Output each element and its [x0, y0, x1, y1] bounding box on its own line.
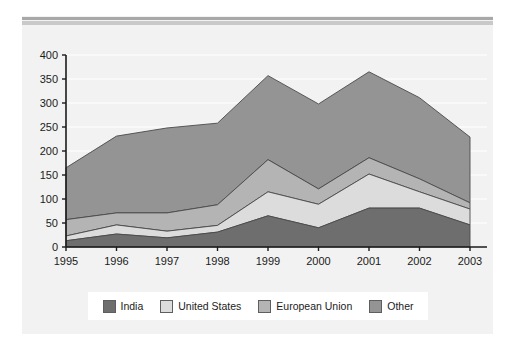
y-tick-label: 100	[40, 193, 58, 205]
legend-swatch-united-states	[160, 300, 173, 313]
legend-item-other[interactable]: Other	[369, 300, 413, 313]
legend-item-united-states[interactable]: United States	[160, 300, 241, 313]
x-tick-label: 1999	[256, 255, 280, 267]
x-tick-label: 2002	[407, 255, 431, 267]
y-tick-label: 150	[40, 169, 58, 181]
legend-swatch-european-union	[258, 300, 271, 313]
y-tick-label: 250	[40, 121, 58, 133]
legend-label-other: Other	[387, 300, 413, 312]
y-tick-label: 200	[40, 145, 58, 157]
legend-item-european-union[interactable]: European Union	[258, 300, 352, 313]
x-tick-label: 1996	[104, 255, 128, 267]
y-tick-label: 350	[40, 73, 58, 85]
y-tick-label: 50	[46, 217, 58, 229]
y-tick-group: 050100150200250300350400	[40, 49, 66, 253]
area-series-group	[66, 72, 470, 247]
chart-figure: 050100150200250300350400 199519961997199…	[0, 0, 515, 350]
legend-swatch-other	[369, 300, 382, 313]
y-tick-label: 300	[40, 97, 58, 109]
x-tick-label: 2003	[458, 255, 482, 267]
legend-label-india: India	[121, 300, 144, 312]
x-tick-label: 2000	[306, 255, 330, 267]
x-tick-label: 1997	[155, 255, 179, 267]
y-tick-label: 400	[40, 49, 58, 61]
y-tick-label: 0	[52, 241, 58, 253]
x-tick-label: 1998	[205, 255, 229, 267]
chart-legend: India United States European Union Other	[88, 292, 428, 320]
legend-item-india[interactable]: India	[103, 300, 144, 313]
x-tick-label: 2001	[357, 255, 381, 267]
legend-label-european-union: European Union	[276, 300, 352, 312]
x-tick-label: 1995	[54, 255, 78, 267]
legend-swatch-india	[103, 300, 116, 313]
x-tick-group: 199519961997199819992000200120022003	[54, 247, 482, 267]
legend-label-united-states: United States	[178, 300, 241, 312]
